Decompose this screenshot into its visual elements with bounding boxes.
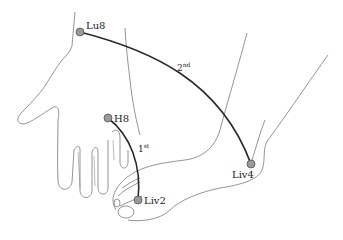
arc-1st-h8-liv2 bbox=[108, 118, 139, 200]
point-liv4 bbox=[247, 160, 255, 168]
acupuncture-diagram: Lu8 H8 Liv2 Liv4 1st 2nd bbox=[0, 0, 343, 240]
point-lu8 bbox=[76, 28, 84, 36]
point-h8 bbox=[104, 114, 112, 122]
arc-2nd-lu8-liv4 bbox=[80, 32, 251, 164]
label-lu8: Lu8 bbox=[86, 20, 105, 31]
label-h8: H8 bbox=[114, 113, 129, 124]
illustration: Lu8 H8 Liv2 Liv4 1st 2nd bbox=[0, 0, 343, 240]
label-liv4: Liv4 bbox=[232, 169, 254, 180]
acupoints bbox=[76, 28, 255, 204]
foot-outline bbox=[113, 33, 328, 221]
order-1st: 1st bbox=[138, 142, 150, 154]
order-2nd: 2nd bbox=[177, 61, 191, 73]
hand-outline bbox=[18, 12, 140, 198]
label-liv2: Liv2 bbox=[144, 195, 166, 206]
point-liv2 bbox=[134, 196, 142, 204]
